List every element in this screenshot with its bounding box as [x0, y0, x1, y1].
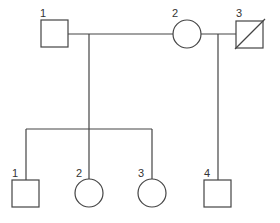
female-circle-icon: [75, 179, 103, 207]
individual-I-2: 2: [172, 7, 201, 48]
label-I-2: 2: [172, 7, 178, 19]
label-II-1: 1: [12, 167, 18, 179]
female-circle-icon: [138, 179, 166, 207]
individual-I-3: 3: [235, 7, 265, 49]
label-II-4: 4: [204, 167, 210, 179]
label-II-2: 2: [76, 167, 82, 179]
male-square-icon: [12, 180, 39, 207]
label-I-1: 1: [40, 7, 46, 19]
male-square-icon: [41, 20, 68, 47]
female-circle-icon: [173, 20, 201, 48]
label-I-3: 3: [236, 7, 242, 19]
male-square-icon: [204, 180, 231, 207]
individual-I-1: 1: [40, 7, 68, 47]
pedigree-diagram: 1 2 3 1 2 3 4: [0, 0, 280, 223]
label-II-3: 3: [138, 167, 144, 179]
